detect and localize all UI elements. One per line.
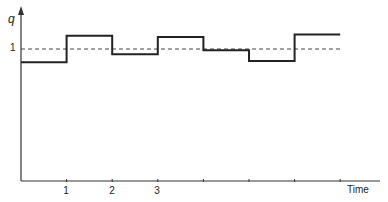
chart-root: q 1 1 2 3 Time [0, 0, 388, 202]
y-axis-label: q [8, 13, 15, 25]
x-axis-label: Time [347, 185, 369, 195]
x-tick-label-2: 2 [109, 186, 115, 196]
y-axis-arrow-icon [18, 6, 24, 15]
x-tick-label-3: 3 [154, 186, 160, 196]
y-reference-label: 1 [10, 43, 16, 53]
x-tick-label-1: 1 [63, 186, 69, 196]
chart-plot [0, 0, 388, 202]
step-series-q [21, 34, 340, 62]
axes [18, 6, 380, 181]
